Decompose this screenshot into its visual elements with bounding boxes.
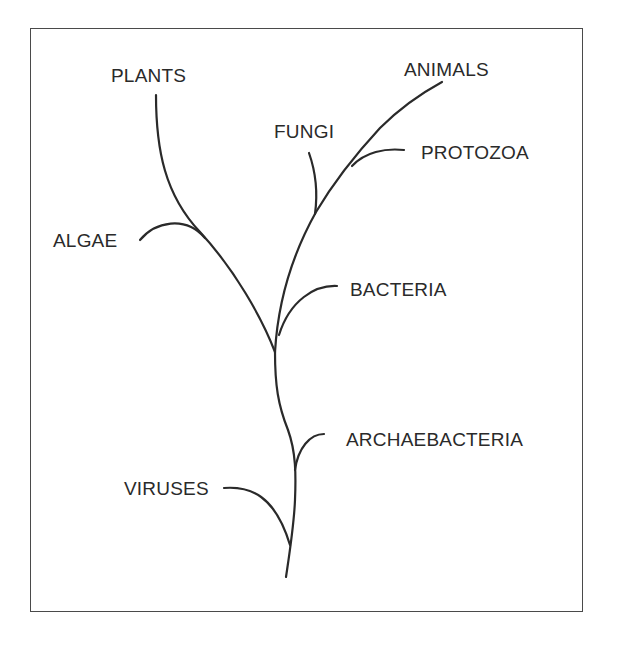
label-animals: ANIMALS — [404, 60, 489, 79]
label-plants: PLANTS — [111, 66, 186, 85]
label-archaebacteria: ARCHAEBACTERIA — [346, 430, 523, 449]
label-fungi: FUNGI — [274, 122, 334, 141]
trunk-line — [275, 352, 295, 577]
viruses-branch-line — [224, 488, 290, 545]
phylogenetic-tree — [0, 0, 617, 648]
archaebacteria-branch-line — [295, 434, 324, 470]
bacteria-branch-line — [279, 286, 337, 335]
label-algae: ALGAE — [53, 231, 117, 250]
label-protozoa: PROTOZOA — [421, 143, 529, 162]
fungi-branch-line — [309, 153, 316, 214]
label-viruses: VIRUSES — [124, 479, 209, 498]
label-bacteria: BACTERIA — [350, 280, 447, 299]
